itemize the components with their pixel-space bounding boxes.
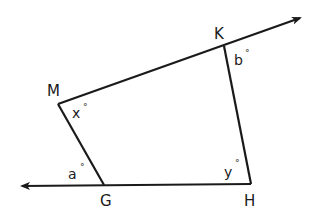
angle-label-x: x: [72, 105, 80, 121]
vertex-label-h: H: [244, 192, 255, 210]
vertex-label-k: K: [214, 25, 225, 43]
quadrilateral-diagram: K M G H b ° x ° a ° y °: [0, 0, 311, 212]
degree-symbol-b: °: [245, 48, 250, 58]
degree-symbol-a: °: [80, 162, 85, 172]
ray-mk: [58, 18, 300, 104]
vertex-label-m: M: [47, 82, 60, 100]
angle-label-y: y: [224, 164, 232, 180]
segment-mg: [58, 104, 104, 185]
vertex-label-g: G: [100, 192, 112, 210]
ray-hg: [22, 184, 251, 186]
degree-symbol-x: °: [83, 102, 88, 112]
angle-label-a: a: [68, 166, 77, 182]
angle-label-b: b: [234, 52, 243, 68]
degree-symbol-y: °: [235, 158, 240, 168]
